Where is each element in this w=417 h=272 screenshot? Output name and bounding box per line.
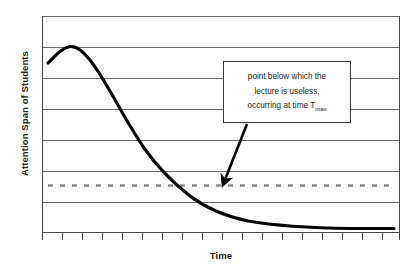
chart-container: point below which the lecture is useless… [0,0,417,272]
x-axis-ticks [43,232,400,240]
annotation-callout-box: point below which the lecture is useless… [223,61,351,123]
annotation-tmax-subscript: max [315,105,326,111]
annotation-line-3: occurring at time Tmax [248,99,327,114]
annotation-line-3-text: occurring at time T [248,101,316,110]
chart-plot-area [0,0,417,272]
annotation-line-2: lecture is useless, [254,85,319,99]
plot-background [42,16,400,232]
annotation-line-1: point below which the [248,70,326,84]
